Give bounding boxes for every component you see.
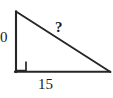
right-angle-marker-icon: [17, 62, 27, 71]
hypotenuse-label: ?: [55, 20, 63, 35]
hypotenuse-line: [16, 12, 111, 73]
vertical-leg-label: 0: [0, 30, 8, 45]
horizontal-leg-label: 15: [38, 77, 53, 92]
figure-canvas: 0 ? 15: [0, 0, 113, 98]
right-triangle-figure: [0, 0, 113, 98]
